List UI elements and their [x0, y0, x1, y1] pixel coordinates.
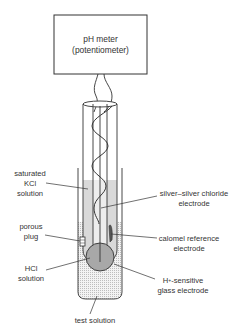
label-silver-chloride: silver–silver chloride electrode	[154, 189, 234, 209]
leader-plug	[45, 235, 80, 241]
label-hcl-solution: HCl solution	[16, 264, 46, 284]
meter-line2: (potentiometer)	[72, 45, 129, 56]
ph-meter-label: pH meter (potentiometer)	[54, 15, 147, 74]
label-porous-plug: porous plug	[16, 222, 46, 242]
leader-kcl	[46, 183, 88, 189]
label-calomel: calomel reference electrode	[157, 234, 221, 254]
label-glass-electrode: H+-sensitive glass electrode	[155, 276, 211, 296]
label-test-solution: test solution	[70, 316, 120, 326]
label-saturated-kcl: saturated KCl solution	[12, 169, 48, 199]
porous-plug	[80, 237, 85, 246]
meter-line1: pH meter	[83, 34, 117, 45]
diagram-canvas: pH meter (potentiometer) saturated KCl s…	[0, 0, 237, 335]
